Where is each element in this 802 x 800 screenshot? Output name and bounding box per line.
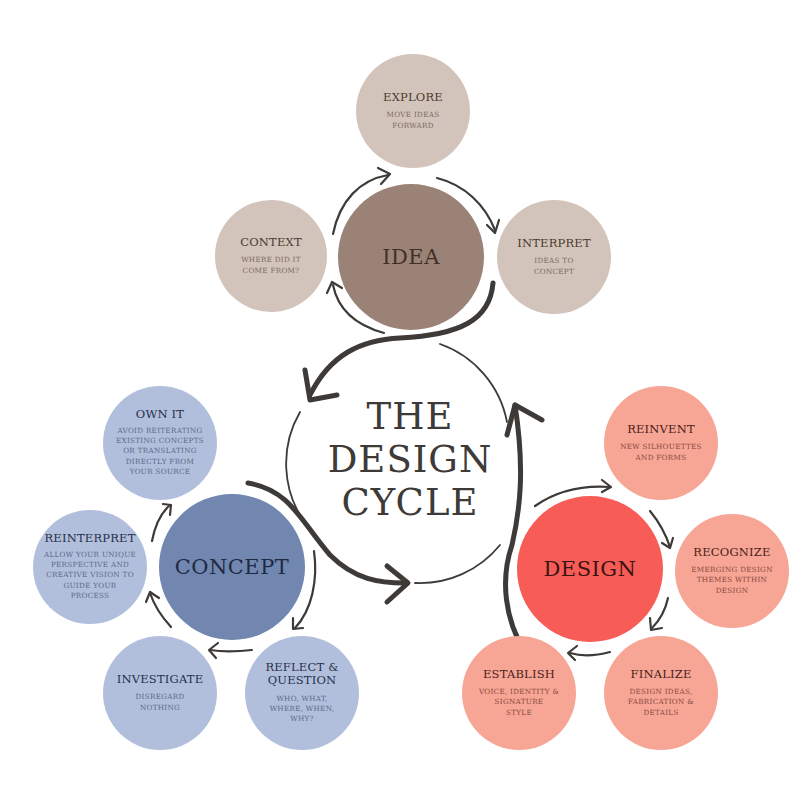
center-ring-arc-bottom — [415, 545, 500, 583]
step-title: RECOGNIZE — [693, 546, 770, 559]
step-description: MOVE IDEAS FORWARD — [387, 110, 440, 131]
step-description: WHERE DID IT COME FROM? — [241, 255, 301, 276]
center-title-line-2: DESIGN — [307, 438, 513, 481]
concept-step-reinterpret: REINTERPRET ALLOW YOUR UNIQUE PERSPECTIV… — [33, 510, 147, 624]
concept-step-reflect-question: REFLECT & QUESTION WHO, WHAT, WHERE, WHE… — [245, 636, 359, 750]
step-title-line-2: QUESTION — [268, 674, 337, 687]
design-step-reinvent: REINVENT NEW SILHOUETTES AND FORMS — [604, 386, 718, 500]
step-title: ESTABLISH — [483, 668, 555, 681]
step-title: REINVENT — [627, 423, 695, 436]
idea-hub-label: IDEA — [382, 245, 440, 269]
step-title: FINALIZE — [630, 668, 691, 681]
step-description: NEW SILHOUETTES AND FORMS — [620, 442, 702, 463]
step-description: WHO, WHAT, WHERE, WHEN, WHY? — [270, 694, 335, 725]
center-title-line-1: THE — [307, 395, 513, 438]
step-title: OWN IT — [136, 408, 184, 421]
concept-hub-label: CONCEPT — [175, 555, 290, 579]
step-description: VOICE, IDENTITY & SIGNATURE STYLE — [479, 687, 559, 718]
design-cycle-diagram: THE DESIGN CYCLE IDEA EXPLORE MOVE IDEAS… — [0, 0, 802, 800]
idea-hub: IDEA — [338, 184, 484, 330]
design-hub-label: DESIGN — [544, 557, 637, 581]
step-description: DESIGN IDEAS, FABRICATION & DETAILS — [628, 687, 694, 718]
design-step-recognize: RECOGNIZE EMERGING DESIGN THEMES WITHIN … — [675, 514, 789, 628]
idea-step-interpret: INTERPRET IDEAS TO CONCEPT — [497, 200, 611, 314]
center-title-line-3: CYCLE — [307, 481, 513, 524]
concept-hub: CONCEPT — [159, 494, 305, 640]
idea-step-context: CONTEXT WHERE DID IT COME FROM? — [215, 200, 327, 312]
step-description: DISREGARD NOTHING — [136, 692, 185, 713]
concept-step-own-it: OWN IT AVOID REITERATING EXISTING CONCEP… — [103, 386, 217, 500]
step-title: EXPLORE — [383, 91, 443, 104]
center-title: THE DESIGN CYCLE — [307, 395, 513, 524]
step-title: REINTERPRET — [44, 532, 135, 545]
step-title: INVESTIGATE — [117, 673, 204, 686]
step-description: EMERGING DESIGN THEMES WITHIN DESIGN — [691, 565, 772, 596]
design-step-finalize: FINALIZE DESIGN IDEAS, FABRICATION & DET… — [604, 636, 718, 750]
design-hub: DESIGN — [517, 496, 663, 642]
idea-step-explore: EXPLORE MOVE IDEAS FORWARD — [356, 54, 470, 168]
step-title: INTERPRET — [517, 237, 591, 250]
design-step-establish: ESTABLISH VOICE, IDENTITY & SIGNATURE ST… — [462, 636, 576, 750]
step-description: ALLOW YOUR UNIQUE PERSPECTIVE AND CREATI… — [44, 550, 136, 602]
step-title: CONTEXT — [240, 236, 302, 249]
step-description: AVOID REITERATING EXISTING CONCEPTS OR T… — [116, 426, 204, 478]
concept-step-investigate: INVESTIGATE DISREGARD NOTHING — [103, 636, 217, 750]
step-description: IDEAS TO CONCEPT — [534, 256, 574, 277]
